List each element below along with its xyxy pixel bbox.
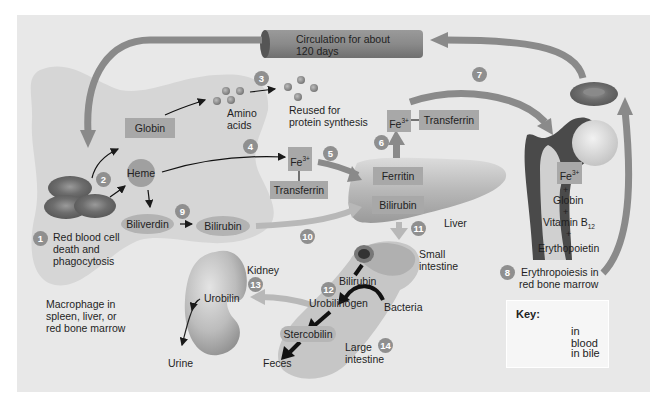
large-intestine-label-line2: intestine: [345, 353, 384, 365]
bilirubin-liver-box: Bilirubin: [372, 196, 424, 214]
fe-label: Fe: [560, 170, 572, 182]
transferrin-box-step6: Transferrin: [419, 110, 479, 130]
step-badge-14: 14: [378, 338, 393, 353]
feces-label: Feces: [263, 357, 292, 369]
marrow-globin-label: Globin: [553, 194, 583, 206]
liver-label: Liver: [444, 217, 467, 229]
heme-node: Heme: [127, 166, 155, 180]
globin-box: Globin: [125, 118, 175, 138]
step1-text-line1: Red blood cell: [53, 231, 120, 243]
legend-item-blood: in blood: [571, 325, 608, 349]
macrophage-label-line1: Macrophage in: [46, 298, 115, 310]
marrow-fe3-box: Fe3+: [557, 162, 582, 184]
legend-key: Key: in blood in bile: [506, 300, 609, 368]
reused-label-line1: Reused for: [289, 104, 340, 116]
step-badge-10: 10: [300, 229, 315, 244]
small-intestine-label-line1: Small: [419, 248, 445, 260]
amino-acids-label-line2: acids: [227, 119, 252, 131]
step-badge-5: 5: [323, 146, 338, 161]
fe-label: Fe: [389, 118, 401, 130]
fe-charge: 3+: [572, 169, 579, 176]
circulation-label-line2: 120 days: [296, 45, 339, 57]
legend-item-bile: in bile: [571, 347, 600, 359]
fe-charge: 3+: [401, 117, 408, 124]
small-intestine-label-line2: intestine: [419, 260, 458, 272]
fe3-box-step4: Fe3+: [288, 147, 312, 171]
step8-text-line1: Erythropoiesis in: [521, 266, 599, 278]
urobilin-label: Urobilin: [204, 292, 240, 304]
marrow-epo-label: Erythopoietin: [538, 242, 599, 254]
ferritin-box: Ferritin: [373, 167, 423, 185]
fe3-box-step6: Fe3+: [387, 110, 411, 132]
plus-sign: +: [566, 228, 571, 240]
macrophage-label-line2: spleen, liver, or: [46, 310, 117, 322]
step-badge-3: 3: [254, 71, 269, 86]
step-badge-1: 1: [33, 231, 48, 246]
step-badge-7: 7: [472, 67, 487, 82]
legend-title: Key:: [516, 308, 540, 320]
step-badge-11: 11: [411, 221, 426, 236]
step-badge-2: 2: [96, 172, 111, 187]
step8-text-line2: red bone marrow: [519, 278, 598, 290]
circulation-label-line1: Circulation for about: [296, 33, 390, 45]
amino-acids-label-line1: Amino: [227, 107, 257, 119]
bilirubin-intestine-label: Bilirubin: [339, 275, 376, 287]
bilirubin-macrophage-node: Bilirubin: [196, 216, 250, 236]
kidney-label: Kidney: [247, 264, 279, 276]
vitamin-text: Vitamin B: [543, 216, 588, 228]
step1-text-line3: phagocytosis: [53, 255, 114, 267]
step-badge-9: 9: [175, 204, 190, 219]
step1-text-line2: death and: [53, 243, 100, 255]
fe-charge: 3+: [302, 155, 309, 162]
reused-label-line2: protein synthesis: [289, 116, 368, 128]
fe-label: Fe: [290, 156, 302, 168]
large-intestine-label-line1: Large: [345, 341, 372, 353]
biliverdin-node: Biliverdin: [121, 214, 174, 234]
bacteria-label: Bacteria: [384, 301, 423, 313]
urine-label: Urine: [168, 357, 193, 369]
step-badge-6: 6: [374, 135, 389, 150]
step-badge-13: 13: [248, 277, 263, 292]
stercobilin-node: Stercobilin: [280, 326, 336, 342]
urobilinogen-label: Urobilinogen: [309, 297, 368, 309]
macrophage-label-line3: red bone marrow: [46, 322, 125, 334]
step-badge-12: 12: [321, 282, 336, 297]
transferrin-box-step4: Transferrin: [270, 181, 328, 199]
vitamin-subscript: 12: [588, 223, 595, 230]
diagram-canvas: Circulation for about 120 days Globin Am…: [0, 0, 666, 399]
step-badge-4: 4: [243, 139, 258, 154]
step-badge-8: 8: [500, 265, 515, 280]
